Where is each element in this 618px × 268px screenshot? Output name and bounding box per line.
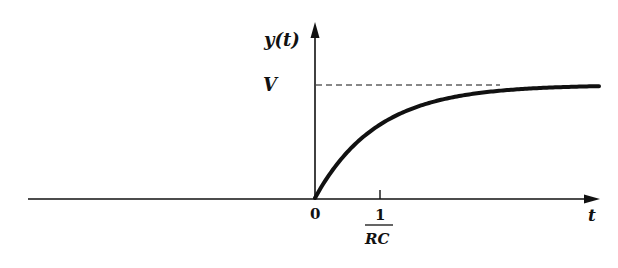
y-axis-label: y(t) — [263, 29, 300, 50]
v-level-label: V — [263, 74, 279, 95]
tick-numerator-label: 1 — [375, 206, 385, 224]
tick-denominator-label: RC — [364, 230, 389, 248]
exponential-curve — [315, 86, 599, 198]
t-axis-arrow-icon — [584, 195, 600, 204]
y-axis-arrow-icon — [311, 22, 320, 38]
x-axis-label: t — [588, 205, 596, 225]
step-response-figure: y(t) V 0 1 RC t — [0, 0, 618, 268]
origin-label: 0 — [310, 205, 320, 223]
chart-canvas: y(t) V 0 1 RC t — [0, 0, 618, 268]
